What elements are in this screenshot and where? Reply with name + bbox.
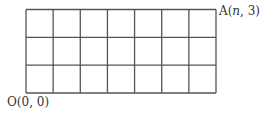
grid-lines	[26, 10, 216, 94]
point-a-label: A(n, 3)	[219, 5, 260, 17]
origin-label: O(0, 0)	[7, 96, 49, 108]
